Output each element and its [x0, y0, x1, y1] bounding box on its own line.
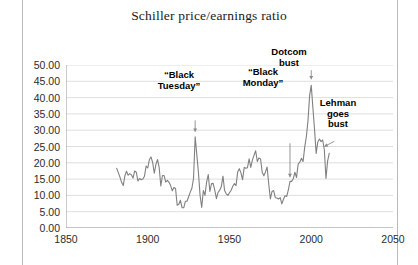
- x-tick-label: 1850: [36, 233, 96, 245]
- annotation-black-monday: “Black Monday”: [232, 67, 294, 88]
- annotation-arrow-head: [309, 76, 313, 79]
- x-tick-label: 1950: [200, 233, 260, 245]
- gridlines: [66, 65, 393, 228]
- x-tick-label: 2050: [363, 233, 418, 245]
- x-tick-label: 1900: [118, 233, 178, 245]
- chart-figure: Schiller price/earnings ratio 0.005.0010…: [0, 0, 418, 265]
- plot-area: [66, 65, 393, 228]
- x-tick-label: 2000: [281, 233, 341, 245]
- annotation-arrow-head: [288, 174, 292, 177]
- annotation-black-tuesday: “Black Tuesday”: [148, 70, 210, 91]
- plot-svg: [66, 65, 393, 228]
- annotation-dotcom-bust: Dotcom bust: [258, 47, 320, 68]
- annotation-lehman-goes-bust: Lehman goes bust: [313, 98, 363, 130]
